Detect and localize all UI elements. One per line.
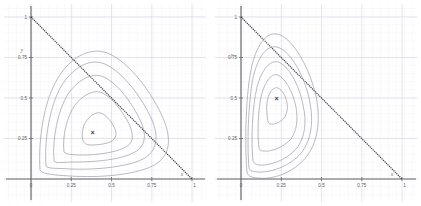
x-tick-label-1: 1 bbox=[193, 183, 196, 188]
y-axis-label: y bbox=[20, 47, 24, 53]
x-tick-label-0.5: 0.5 bbox=[318, 183, 325, 188]
x-tick-label-0: 0 bbox=[240, 183, 243, 188]
y-tick-label-0.25: 0.25 bbox=[18, 136, 27, 141]
fixed-point-marker: × bbox=[90, 129, 94, 136]
x-tick-label-0.75: 0.75 bbox=[147, 183, 156, 188]
x-tick-label-0.5: 0.5 bbox=[108, 183, 115, 188]
y-tick-label-1: 1 bbox=[24, 15, 27, 20]
x-tick-label-1: 1 bbox=[403, 183, 406, 188]
right-plot-svg: × 0 0.25 0.5 0.75 1 1 0.75 0.5 0.25 y x bbox=[211, 0, 421, 206]
left-plot-svg: × 0 0.25 0.5 0.75 1 1 0.75 0.5 0.25 y x bbox=[0, 0, 210, 206]
y-tick-label-0.5: 0.5 bbox=[21, 96, 28, 101]
left-phase-portrait: × 0 0.25 0.5 0.75 1 1 0.75 0.5 0.25 y x bbox=[0, 0, 210, 206]
figure-container: × 0 0.25 0.5 0.75 1 1 0.75 0.5 0.25 y x bbox=[0, 0, 421, 206]
x-tick-label-0: 0 bbox=[30, 183, 33, 188]
y-tick-label-0.75: 0.75 bbox=[18, 55, 27, 60]
y-tick-label-0.5: 0.5 bbox=[231, 96, 238, 101]
x-axis-label: x bbox=[390, 171, 394, 177]
right-phase-portrait: × 0 0.25 0.5 0.75 1 1 0.75 0.5 0.25 y x bbox=[211, 0, 421, 206]
y-axis-label: y bbox=[230, 52, 234, 58]
x-axis-label: x bbox=[180, 171, 184, 177]
x-tick-label-0.25: 0.25 bbox=[67, 183, 76, 188]
minor-grid bbox=[4, 4, 206, 202]
x-tick-label-0.75: 0.75 bbox=[357, 183, 366, 188]
minor-grid bbox=[215, 4, 417, 202]
y-tick-label-1: 1 bbox=[234, 15, 237, 20]
fixed-point-marker: × bbox=[274, 95, 278, 102]
y-tick-label-0.25: 0.25 bbox=[228, 136, 237, 141]
x-tick-label-0.25: 0.25 bbox=[277, 183, 286, 188]
